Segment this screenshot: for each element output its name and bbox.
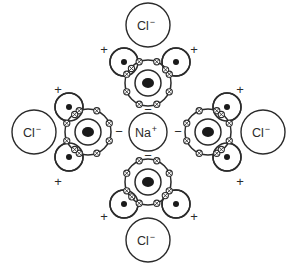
electron-water-bottom-bond-1	[162, 192, 168, 198]
water-bottom-charge-positive-0: +	[100, 209, 108, 224]
electron-water-bottom-2	[124, 170, 130, 176]
electron-water-bottom-5	[166, 170, 172, 176]
electron-water-left-0	[64, 120, 70, 126]
water-top-hydrogen-proton-1	[173, 59, 179, 65]
water-right: ++−	[174, 82, 244, 189]
electron-water-right-2	[196, 150, 202, 156]
electron-water-right-5	[196, 108, 202, 114]
water-right-charge-positive-1: +	[236, 174, 244, 189]
water-left-oxygen-nucleus	[82, 127, 94, 137]
chloride-bottom[interactable]: Cl−	[126, 218, 170, 262]
water-left-charge-positive-0: +	[54, 82, 62, 97]
electron-water-top-4	[136, 101, 142, 107]
diagram-canvas: ++−++−++−++−Cl−Cl−Cl−Cl−Na+	[0, 0, 297, 265]
electron-water-bottom-3	[136, 158, 142, 164]
water-right-hydrogen-proton-0	[224, 104, 230, 110]
electron-water-right-bond-1	[218, 146, 224, 152]
water-top-oxygen-nucleus	[142, 78, 154, 88]
electron-water-top-bond-0	[128, 65, 134, 71]
chloride-top[interactable]: Cl−	[126, 3, 170, 47]
water-bottom-hydrogen-proton-1	[173, 201, 179, 207]
electron-water-top-6	[124, 71, 130, 77]
water-bottom-oxygen-nucleus	[142, 177, 154, 187]
electron-water-left-3	[106, 120, 112, 126]
electron-water-bottom-0	[136, 200, 142, 206]
water-top-charge-positive-1: +	[190, 42, 198, 57]
water-right-hydrogen-proton-1	[224, 154, 230, 160]
electron-water-left-5	[94, 150, 100, 156]
electron-water-right-3	[184, 138, 190, 144]
electron-water-bottom-7	[154, 200, 160, 206]
water-left-hydrogen-proton-1	[66, 154, 72, 160]
electron-water-right-bond-0	[218, 111, 224, 117]
electron-water-top-5	[124, 89, 130, 95]
water-left-charge-negative-2: −	[115, 124, 123, 139]
water-top-hydrogen-proton-0	[121, 59, 127, 65]
electron-water-left-7	[64, 138, 70, 144]
electron-water-left-2	[94, 108, 100, 114]
water-right-charge-negative-2: −	[174, 124, 182, 139]
water-right-oxygen-nucleus	[202, 127, 214, 137]
electron-water-left-bond-1	[72, 146, 78, 152]
water-right-charge-positive-0: +	[236, 82, 244, 97]
water-bottom: ++−	[100, 148, 198, 224]
electron-water-top-7	[136, 59, 142, 65]
water-bottom-hydrogen-proton-0	[121, 201, 127, 207]
electron-water-bottom-bond-0	[129, 194, 135, 200]
electron-water-left-bond-0	[72, 111, 78, 117]
electron-water-bottom-1	[124, 188, 130, 194]
water-left-charge-positive-1: +	[54, 174, 62, 189]
electron-water-top-bond-1	[163, 67, 169, 73]
electron-water-top-2	[166, 89, 172, 95]
water-left-hydrogen-proton-0	[66, 104, 72, 110]
water-bottom-charge-positive-1: +	[190, 209, 198, 224]
electron-water-right-4	[184, 120, 190, 126]
electron-water-left-4	[106, 138, 112, 144]
electron-water-right-7	[226, 120, 232, 126]
water-left: ++−	[54, 82, 123, 189]
chloride-left[interactable]: Cl−	[12, 110, 56, 154]
electron-water-bottom-4	[154, 158, 160, 164]
hydration-diagram: ++−++−++−++−Cl−Cl−Cl−Cl−Na+	[0, 0, 297, 265]
sodium-cation[interactable]: Na+	[129, 113, 167, 151]
electron-water-top-3	[154, 101, 160, 107]
electron-water-right-0	[226, 138, 232, 144]
chloride-right[interactable]: Cl−	[241, 110, 285, 154]
water-top-charge-positive-0: +	[100, 42, 108, 57]
water-top: ++−	[100, 42, 198, 117]
electron-water-top-0	[154, 59, 160, 65]
